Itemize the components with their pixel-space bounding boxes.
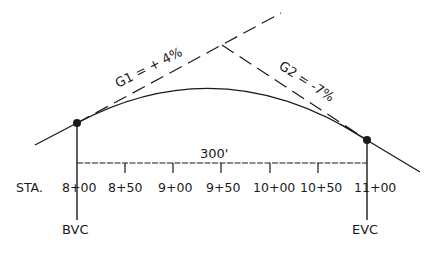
station-9-50: 9+50: [206, 180, 240, 195]
g1-tangent-dashed: [77, 13, 281, 123]
g1-label: G1 = + 4%: [113, 44, 185, 91]
station-10-00: 10+00: [253, 180, 295, 195]
g2-label: G2 = -7%: [276, 58, 337, 105]
bvc-label: BVC: [62, 222, 89, 237]
station-8-00: 8+00: [62, 180, 96, 195]
station-11-00: 11+00: [354, 180, 396, 195]
curve-length-label: 300': [200, 146, 228, 161]
g2-tangent-dashed: [222, 45, 367, 140]
vertical-curve-diagram: G1 = + 4% G2 = -7% 300' STA. 8+00 8+50 9…: [0, 0, 427, 257]
evc-label: EVC: [352, 222, 378, 237]
station-9-00: 9+00: [158, 180, 192, 195]
station-8-50: 8+50: [108, 180, 142, 195]
station-prefix: STA.: [16, 180, 43, 195]
diagram-svg: G1 = + 4% G2 = -7% 300' STA. 8+00 8+50 9…: [0, 0, 427, 257]
station-10-50: 10+50: [300, 180, 342, 195]
incoming-tangent-line: [35, 123, 77, 145]
